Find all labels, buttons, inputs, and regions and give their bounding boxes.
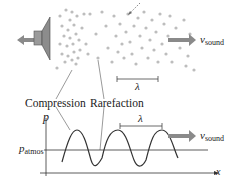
x-axis-label: x (216, 166, 220, 177)
top-velocity-arrow (168, 34, 196, 46)
compression-label: Compression (25, 97, 86, 109)
particle-pointer (130, 3, 140, 13)
graph-wavelength-label: λ (138, 112, 143, 124)
pressure-wave (62, 130, 178, 166)
rarefaction-label: Rarefaction (90, 97, 144, 109)
atmos-label: patmos (19, 142, 44, 156)
graph-velocity-arrow (168, 130, 196, 142)
top-velocity-label: vsound (200, 33, 224, 47)
top-wavelength-label: λ (135, 80, 140, 92)
compression-leader (56, 70, 72, 99)
speaker-icon (34, 17, 50, 60)
graph-velocity-label: vsound (200, 129, 224, 143)
y-axis-label: p (43, 110, 49, 125)
rarefaction-leader (98, 60, 104, 99)
